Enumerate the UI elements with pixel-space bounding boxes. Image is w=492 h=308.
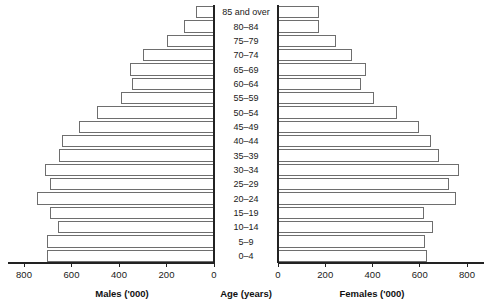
- age-group-label: 65–69: [233, 65, 258, 75]
- male-bar: [50, 178, 214, 189]
- male-bar: [80, 121, 214, 132]
- male-bar: [168, 35, 214, 46]
- male-axis-tick-label: 400: [111, 269, 127, 280]
- male-bar: [50, 207, 214, 218]
- age-group-label: 80–84: [233, 22, 258, 32]
- male-bar: [60, 150, 214, 161]
- age-group-label: 75–79: [233, 36, 258, 46]
- female-axis-title: Females ('000): [339, 288, 404, 299]
- male-bar: [121, 92, 214, 103]
- female-bar: [278, 92, 374, 103]
- female-bar: [278, 178, 448, 189]
- male-axis-ticks: 8006004002000: [16, 263, 217, 280]
- female-bar: [278, 107, 396, 118]
- female-bar: [278, 78, 361, 89]
- age-group-label: 35–39: [233, 151, 258, 161]
- female-axis-tick-label: 600: [412, 269, 428, 280]
- male-bar: [98, 107, 214, 118]
- population-pyramid-chart: 8006004002000 0200400600800 0–45–910–141…: [0, 0, 492, 308]
- age-group-label: 15–19: [233, 208, 258, 218]
- male-bar: [132, 78, 214, 89]
- male-axis-tick-label: 800: [16, 269, 32, 280]
- female-bars-group: [278, 6, 459, 261]
- female-bar: [278, 164, 459, 175]
- male-axis-tick-label: 0: [211, 269, 216, 280]
- male-bar: [48, 236, 214, 247]
- male-bar: [37, 193, 214, 204]
- female-bar: [278, 35, 336, 46]
- female-bar: [278, 21, 318, 32]
- female-bar: [278, 193, 455, 204]
- male-bar: [48, 250, 214, 261]
- male-bar: [45, 164, 214, 175]
- age-group-label: 20–24: [233, 194, 258, 204]
- male-bar: [184, 21, 214, 32]
- female-bar: [278, 207, 423, 218]
- age-axis-title: Age (years): [220, 288, 272, 299]
- female-bar: [278, 250, 427, 261]
- female-bar: [278, 64, 365, 75]
- age-group-label: 10–14: [233, 222, 258, 232]
- male-bar: [62, 135, 214, 146]
- male-bar: [131, 64, 214, 75]
- male-bar: [144, 49, 214, 60]
- age-group-label: 0–4: [238, 251, 253, 261]
- age-group-label: 60–64: [233, 79, 258, 89]
- age-group-label: 45–49: [233, 122, 258, 132]
- male-axis-tick-label: 200: [159, 269, 175, 280]
- female-bar: [278, 49, 351, 60]
- male-bar: [196, 6, 214, 17]
- female-axis-tick-label: 200: [317, 269, 333, 280]
- age-group-label: 25–29: [233, 179, 258, 189]
- female-bar: [278, 135, 430, 146]
- male-axis-tick-label: 600: [64, 269, 80, 280]
- age-group-label: 30–34: [233, 165, 258, 175]
- age-group-label: 50–54: [233, 108, 258, 118]
- male-bar: [58, 221, 214, 232]
- female-bar: [278, 150, 439, 161]
- female-axis-tick-label: 400: [365, 269, 381, 280]
- female-bar: [278, 221, 433, 232]
- female-bar: [278, 6, 318, 17]
- female-axis-tick-label: 0: [275, 269, 280, 280]
- male-axis-title: Males ('000): [95, 288, 148, 299]
- age-group-labels: 0–45–910–1415–1920–2425–2930–3435–3940–4…: [222, 7, 270, 261]
- female-axis-ticks: 0200400600800: [275, 263, 475, 280]
- male-bars-group: [37, 6, 214, 261]
- age-group-label: 55–59: [233, 93, 258, 103]
- age-group-label: 85 and over: [222, 7, 270, 17]
- age-group-label: 70–74: [233, 50, 258, 60]
- female-axis-tick-label: 800: [459, 269, 475, 280]
- female-bar: [278, 121, 419, 132]
- age-group-label: 40–44: [233, 136, 258, 146]
- female-bar: [278, 236, 424, 247]
- age-group-label: 5–9: [238, 237, 253, 247]
